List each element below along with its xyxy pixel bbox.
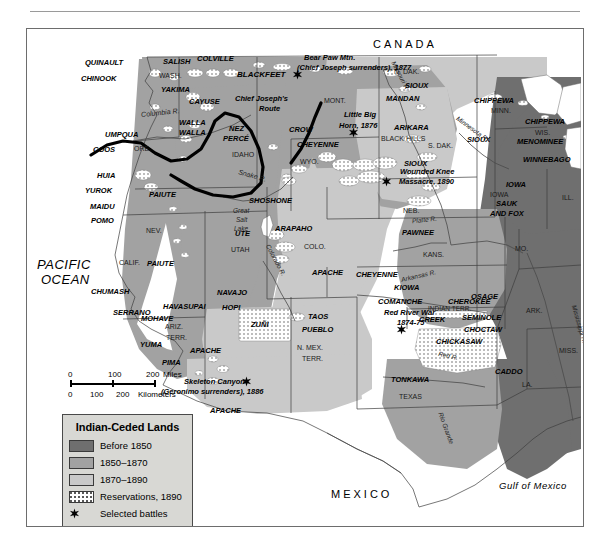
tribe-label: POMO <box>91 217 114 225</box>
map-frame: CANADAMEXICOPACIFICOCEANGulf of MexicoWA… <box>26 28 584 527</box>
state-label: WIS. <box>535 129 550 136</box>
tribe-label: HAVASUPAI <box>163 303 206 311</box>
tribe-label: SIOUX <box>405 82 428 90</box>
tribe-label: CHEYENNE <box>297 141 339 149</box>
state-label: MISS. <box>559 347 578 354</box>
state-label: IDAHO <box>232 151 254 158</box>
swatch-before-1850 <box>69 440 94 452</box>
state-label: LA. <box>522 381 533 388</box>
legend-label-1850-1870: 1850–1870 <box>100 457 148 468</box>
tribe-label: YUMA <box>140 341 162 349</box>
tribe-label: ARAPAHO <box>275 225 312 233</box>
state-label: IOWA <box>490 191 508 198</box>
annotation-label: Red River War <box>384 309 435 317</box>
state-label: NEB. <box>403 207 419 214</box>
river-label: Salt <box>236 217 247 224</box>
legend-label-battles: Selected battles <box>100 508 168 519</box>
tribe-label: YAKIMA <box>161 86 190 94</box>
state-label: TERR. <box>166 334 187 341</box>
tribe-label: MANDAN <box>386 95 419 103</box>
tribe-label: UTE <box>235 230 250 238</box>
legend-footnote: Tribal locations reflect situation in th… <box>69 524 186 527</box>
legend-title: Indian-Ceded Lands <box>69 421 186 433</box>
tribe-label: HUIA <box>97 172 115 180</box>
swatch-1870-1890 <box>69 474 94 486</box>
annotation-label: Little Big <box>344 111 376 119</box>
country-label-mexico: MEXICO <box>331 489 392 500</box>
scale-miles-unit: Miles <box>163 370 182 379</box>
state-label: TERR. <box>302 355 323 362</box>
battle-star-icon-wounded-knee <box>381 176 392 187</box>
annotation-label: Massacre, 1890 <box>399 178 454 186</box>
tribe-label: ZUÑI <box>251 321 269 329</box>
scale-km-tick-0: 0 <box>68 390 72 399</box>
tribe-label: PERCÉ <box>223 135 249 143</box>
tribe-label: HOPI <box>222 304 240 312</box>
state-label: ORE. <box>134 145 151 152</box>
map-page: CANADAMEXICOPACIFICOCEANGulf of MexicoWA… <box>0 0 610 537</box>
water-label: Gulf of Mexico <box>499 481 567 491</box>
tribe-label: CHOCTAW <box>464 326 502 334</box>
battle-star-icon-red-river-war <box>396 324 407 335</box>
state-label: MONT. <box>324 97 346 104</box>
tribe-label: TAOS <box>308 313 328 321</box>
annotation-label: Route <box>259 105 280 113</box>
tribe-label: KIOWA <box>394 284 419 292</box>
state-label: WASH. <box>159 72 182 79</box>
tribe-label: CHICKASAW <box>436 338 482 346</box>
tribe-label: CHINOOK <box>81 75 116 83</box>
state-label: CALIF. <box>119 259 140 266</box>
top-divider-rule <box>30 11 580 12</box>
tribe-label: APACHE <box>312 269 343 277</box>
swatch-1850-1870 <box>69 457 94 469</box>
tribe-label: CHIPPEWA <box>525 118 565 126</box>
tribe-label: NEZ <box>229 125 244 133</box>
tribe-label: WINNEBAGO <box>523 156 571 164</box>
tribe-label: APACHE <box>210 407 241 415</box>
tribe-label: MAIDU <box>90 203 115 211</box>
battle-star-icon-bear-paw-mtn <box>292 69 303 80</box>
tribe-label: APACHE <box>190 347 221 355</box>
tribe-label: QUINAULT <box>85 59 123 67</box>
tribe-label: ARIKARA <box>394 124 429 132</box>
tribe-label: CHUMASH <box>91 288 129 296</box>
state-label: ARK. <box>526 307 542 314</box>
tribe-label: PAIUTE <box>147 260 174 268</box>
legend-label-reservations: Reservations, 1890 <box>100 491 182 502</box>
state-label: MO. <box>515 245 528 252</box>
scale-km-tick-200: 200 <box>116 390 129 399</box>
legend-item-reservations: Reservations, 1890 <box>69 490 186 503</box>
legend-item-1870-1890: 1870–1890 <box>69 473 186 486</box>
tribe-label: UMPQUA <box>105 131 138 139</box>
battle-star-icon-little-big-horn <box>348 127 359 138</box>
tribe-label: SHOSHONE <box>249 197 292 205</box>
tribe-label: CROW <box>289 126 313 134</box>
scale-miles-tick-0: 0 <box>68 370 72 379</box>
water-label: OCEAN <box>41 273 90 286</box>
tribe-label: MOHAVE <box>141 315 173 323</box>
state-label: KANS. <box>423 251 444 258</box>
scale-miles-tick-100: 100 <box>108 370 121 379</box>
country-label-canada: CANADA <box>373 39 437 50</box>
tribe-label: CHEYENNE <box>356 271 398 279</box>
tribe-label: CADDO <box>495 368 523 376</box>
tribe-label: NAVAJO <box>217 289 247 297</box>
tribe-label: IOWA <box>506 181 526 189</box>
tribe-label: SEMINOLE <box>462 314 501 322</box>
legend-item-battles: Selected battles <box>69 507 186 520</box>
tribe-label: PAIUTE <box>149 191 176 199</box>
tribe-label: BLACKFEET <box>237 71 285 79</box>
tribe-label: SAUK <box>496 200 517 208</box>
state-label: ARIZ. <box>165 323 183 330</box>
state-label: S. DAK. <box>428 142 453 149</box>
tribe-label: AND FOX <box>490 210 524 218</box>
tribe-label: COLVILLE <box>197 55 234 63</box>
state-label: ILL. <box>562 194 574 201</box>
battle-star-icon <box>69 508 94 519</box>
state-label: WYO. <box>300 158 319 165</box>
tribe-label: MENOMINEE <box>517 138 563 146</box>
annotation-label: Skeleton Canyon <box>184 378 245 386</box>
tribe-label: SALISH <box>163 58 191 66</box>
state-label: TEXAS <box>399 393 422 400</box>
state-label: COLO. <box>304 243 326 250</box>
